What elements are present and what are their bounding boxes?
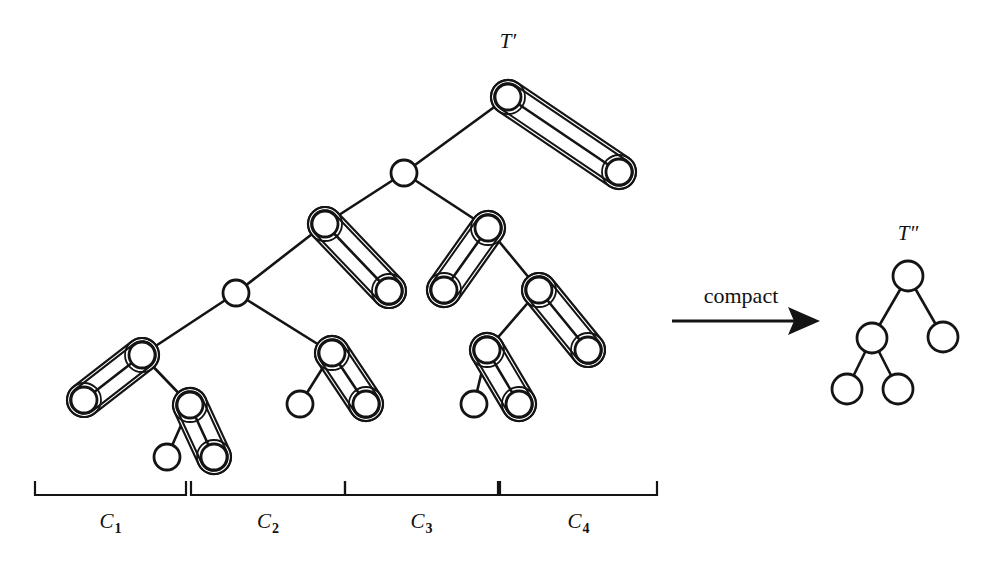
label-t-double-prime: T″ (898, 221, 919, 245)
figure-root: C1C2C3C4 T′ T″ compact (0, 0, 988, 563)
compact-arrow (672, 307, 820, 335)
cluster-label: C2 (257, 509, 279, 536)
tree-node-white (602, 155, 636, 189)
tree-node-white (372, 274, 406, 308)
tree-node-white (67, 383, 101, 417)
tree-node-white (197, 440, 231, 474)
tree-compaction-diagram: C1C2C3C4 T′ T″ compact (0, 0, 988, 563)
tree-node-hatched (308, 207, 342, 241)
tree-node-hatched (857, 323, 887, 353)
tree-node-hatched (470, 333, 504, 367)
tree-edge (404, 97, 508, 173)
tree-node-white (571, 333, 605, 367)
cluster-bracket: C2 (191, 482, 345, 536)
cluster-label: C4 (567, 509, 589, 536)
tree-node-white (883, 374, 913, 404)
tree-node-hatched (471, 211, 505, 245)
cluster-brackets: C1C2C3C4 (35, 482, 657, 536)
tree-node-hatched (391, 160, 417, 186)
tree-node-white (287, 391, 313, 417)
tree-node-white (928, 322, 958, 352)
tree-node-hatched (491, 80, 525, 114)
tree-node-white (502, 387, 536, 421)
cluster-bracket: C1 (35, 482, 186, 536)
left-tree (60, 73, 642, 479)
tree-node-white (832, 374, 862, 404)
tree-node-hatched (125, 338, 159, 372)
capsule-edge (308, 329, 389, 427)
tree-node-white (349, 387, 383, 421)
tree-node-white (154, 444, 180, 470)
cluster-bracket: C3 (345, 482, 498, 536)
tree-node-hatched (223, 280, 249, 306)
tree-node-white (427, 273, 461, 307)
tree-node-hatched (315, 336, 349, 370)
tree-node-hatched (893, 261, 923, 291)
compact-label: compact (704, 283, 779, 308)
tree-node-hatched (522, 273, 556, 307)
label-t-prime: T′ (500, 29, 517, 53)
arrow-shape (672, 307, 820, 335)
tree-node-white (461, 391, 487, 417)
right-tree (832, 261, 958, 404)
cluster-bracket: C4 (500, 482, 657, 536)
cluster-label: C3 (410, 509, 432, 536)
cluster-label: C1 (99, 509, 121, 536)
tree-node-hatched (173, 388, 207, 422)
